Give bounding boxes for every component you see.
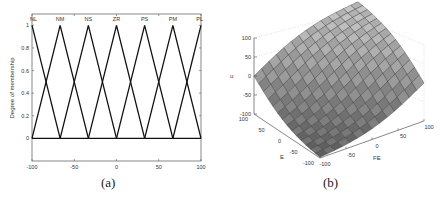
svg-text:PS: PS	[141, 16, 149, 22]
svg-text:1: 1	[26, 22, 29, 28]
svg-text:0.6: 0.6	[21, 68, 29, 74]
svg-text:NS: NS	[85, 16, 93, 22]
control-surface-chart: 100500-50-100100500-50-100-100-50050100 …	[220, 0, 446, 175]
svg-text:-50: -50	[347, 152, 355, 158]
svg-text:0.2: 0.2	[21, 113, 29, 119]
caption-b: (b)	[323, 175, 338, 191]
svg-text:0.4: 0.4	[21, 90, 29, 96]
control-surface-svg: 100500-50-100100500-50-100-100-50050100 …	[220, 0, 446, 175]
svg-text:PM: PM	[169, 16, 178, 22]
svg-text:-50: -50	[70, 164, 78, 170]
svg-text:-50: -50	[290, 149, 298, 155]
membership-nm	[32, 25, 88, 138]
membership-chart: 00.20.40.60.81 -100-50050100 NLNMNSZRPSP…	[0, 0, 220, 175]
membership-ns	[60, 25, 116, 138]
svg-text:100: 100	[239, 116, 248, 122]
svg-text:0: 0	[278, 138, 281, 144]
membership-zr	[88, 25, 144, 138]
membership-pm	[145, 25, 201, 138]
fe-axis-label: FE	[373, 155, 381, 161]
svg-text:100: 100	[242, 35, 251, 41]
svg-text:-100: -100	[26, 164, 37, 170]
svg-text:100: 100	[196, 164, 205, 170]
svg-text:0: 0	[115, 164, 118, 170]
svg-text:0: 0	[375, 143, 378, 149]
svg-text:50: 50	[400, 133, 406, 139]
svg-text:NM: NM	[56, 16, 65, 22]
svg-text:-50: -50	[243, 92, 251, 98]
svg-text:-100: -100	[303, 160, 314, 166]
membership-ps	[117, 25, 173, 138]
membership-labels: NLNMNSZRPSPMPL	[30, 16, 203, 22]
svg-text:0.8: 0.8	[21, 45, 29, 51]
svg-text:0: 0	[26, 135, 29, 141]
svg-text:100: 100	[424, 124, 433, 130]
svg-text:50: 50	[245, 54, 251, 60]
svg-text:ZR: ZR	[113, 16, 120, 22]
caption-a: (a)	[101, 175, 115, 191]
svg-text:-100: -100	[319, 161, 330, 167]
svg-text:NL: NL	[30, 16, 37, 22]
surface-mesh	[254, 2, 424, 157]
svg-text:0: 0	[248, 73, 251, 79]
e-axis-label: E	[280, 154, 284, 160]
y-axis-ticks: 00.20.40.60.81	[21, 22, 201, 141]
membership-lines	[32, 25, 201, 138]
y-axis-label: Degree of membership	[9, 57, 15, 119]
membership-chart-svg: 00.20.40.60.81 -100-50050100 NLNMNSZRPSP…	[0, 0, 220, 175]
svg-text:50: 50	[156, 164, 162, 170]
svg-text:PL: PL	[196, 16, 203, 22]
z-axis-label: u	[230, 73, 233, 79]
x-axis-ticks: -100-50050100	[26, 14, 205, 170]
svg-text:50: 50	[258, 127, 264, 133]
